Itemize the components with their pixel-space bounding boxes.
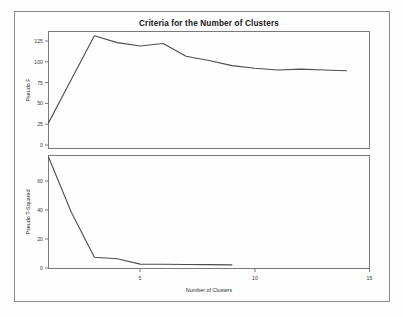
top-ytick-label-75: 75	[37, 80, 43, 86]
bottom-ytick-label-0: 0	[40, 265, 43, 271]
chart-title: Criteria for the Number of Clusters	[139, 19, 279, 28]
xtick-label-5: 5	[139, 275, 142, 281]
figure-background	[0, 0, 403, 317]
top-ytick-label-0: 0	[40, 142, 43, 148]
x-axis-title: Number of Clusters	[186, 287, 233, 293]
top-ytick-label-100: 100	[34, 59, 43, 65]
cluster-criteria-figure: Criteria for the Number of Clusters 125 …	[0, 0, 403, 317]
top-ytick-label-25: 25	[37, 121, 43, 127]
top-ytick-label-50: 50	[37, 100, 43, 106]
bottom-ytick-label-60: 60	[37, 178, 43, 184]
top-ytick-label-125: 125	[34, 38, 43, 44]
bottom-ytick-label-40: 40	[37, 207, 43, 213]
xtick-label-10: 10	[252, 275, 258, 281]
bottom-y-axis-title: Pseudo T-Squared	[25, 190, 31, 235]
figure-canvas: Criteria for the Number of Clusters 125 …	[0, 0, 403, 317]
bottom-ytick-label-20: 20	[37, 236, 43, 242]
top-y-axis-title: Pseudo F	[25, 78, 31, 102]
xtick-label-15: 15	[367, 275, 373, 281]
